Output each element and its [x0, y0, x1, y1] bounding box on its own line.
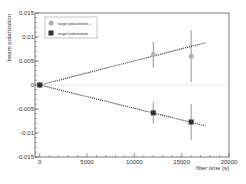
y-tick-label: 0.01: [22, 34, 34, 40]
x-tick-label: 10000: [126, 159, 143, 165]
legend-label: target polarization -: [58, 32, 91, 36]
y-tick-label: -0.015: [17, 154, 35, 160]
x-axis-label: filter time (s): [196, 165, 229, 171]
y-tick-label: -0.005: [17, 106, 35, 112]
circle-marker: [189, 54, 194, 59]
legend: target polarization +target polarization…: [45, 17, 97, 38]
y-tick-label: 0: [31, 82, 35, 88]
legend-square-marker: [49, 31, 54, 36]
circle-marker: [151, 52, 156, 57]
legend-circle-marker: [49, 21, 54, 26]
y-tick-label: -0.01: [20, 130, 34, 136]
x-tick-label: 15000: [173, 159, 190, 165]
square-marker: [151, 110, 156, 115]
y-axis-label: beam polarization: [6, 14, 12, 61]
fit-line: [40, 43, 206, 85]
legend-label: target polarization +: [58, 22, 92, 26]
fit-line: [40, 85, 206, 126]
chart: 05000100001500020000-0.015-0.01-0.00500.…: [0, 0, 246, 184]
fit-lines: [40, 43, 206, 126]
x-tick-label: 5000: [80, 159, 94, 165]
square-marker: [37, 83, 42, 88]
y-tick-label: 0.015: [19, 10, 35, 16]
x-tick-label: 0: [38, 159, 42, 165]
y-tick-label: 0.005: [19, 58, 35, 64]
square-marker: [189, 119, 194, 124]
